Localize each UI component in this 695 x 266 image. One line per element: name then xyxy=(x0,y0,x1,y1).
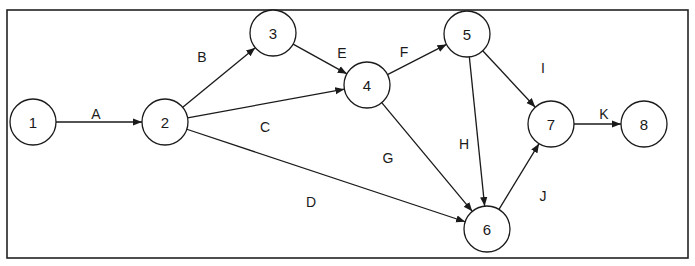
node-label: 6 xyxy=(483,221,491,238)
node-5: 5 xyxy=(444,11,490,57)
node-label: 2 xyxy=(161,114,169,131)
node-1: 1 xyxy=(10,99,56,145)
edge-label-k: K xyxy=(599,106,609,122)
edge-i-arrow xyxy=(483,51,536,107)
node-4: 4 xyxy=(344,62,390,108)
node-6: 6 xyxy=(464,206,510,252)
edge-label-c: C xyxy=(260,119,270,135)
edge-label-b: B xyxy=(197,49,206,65)
edge-label-e: E xyxy=(337,45,346,61)
edge-label-f: F xyxy=(400,44,409,60)
edge-label-h: H xyxy=(459,136,469,152)
edge-g-arrow xyxy=(382,103,473,212)
node-7: 7 xyxy=(528,101,574,147)
edge-b-arrow xyxy=(183,48,256,108)
network-diagram: ABCDEFGHIJK 12345678 xyxy=(0,0,695,266)
edge-label-j: J xyxy=(540,188,547,204)
node-label: 5 xyxy=(463,26,471,43)
edge-label-a: A xyxy=(91,106,101,122)
edge-d-arrow xyxy=(187,129,465,221)
edge-label-g: G xyxy=(383,150,394,166)
edge-f-arrow xyxy=(387,44,446,74)
node-label: 3 xyxy=(269,25,277,42)
edge-c-arrow xyxy=(188,89,345,118)
edge-label-d: D xyxy=(306,194,316,210)
node-label: 7 xyxy=(547,116,555,133)
node-label: 1 xyxy=(29,114,37,131)
edge-h-arrow xyxy=(469,57,484,206)
node-3: 3 xyxy=(250,10,296,56)
edge-label-i: I xyxy=(541,60,545,76)
diagram-frame xyxy=(7,10,688,258)
node-8: 8 xyxy=(621,101,667,147)
node-label: 4 xyxy=(363,77,371,94)
edge-j-arrow xyxy=(499,144,539,210)
node-2: 2 xyxy=(142,99,188,145)
node-label: 8 xyxy=(640,116,648,133)
